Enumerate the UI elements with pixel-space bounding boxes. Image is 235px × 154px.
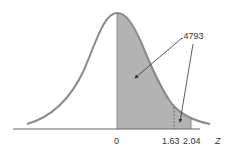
- normal-curve-chart: [0, 0, 235, 154]
- annotation-arrow-tail: [180, 44, 193, 122]
- tick-label-0: 0: [114, 137, 119, 146]
- annotation-label: .4793: [181, 32, 204, 41]
- axis-label-z: Z: [215, 137, 221, 146]
- tick-label-1-63: 1.63: [162, 137, 180, 146]
- tick-label-2-04: 2.04: [183, 137, 201, 146]
